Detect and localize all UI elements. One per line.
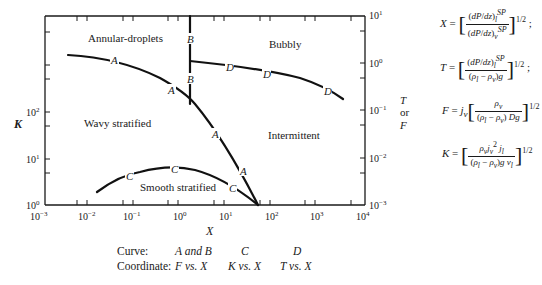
curve-d-label: D — [225, 61, 234, 73]
curve-a-label: A — [211, 128, 219, 140]
region-wavy-stratified: Wavy stratified — [84, 117, 152, 129]
equation-f: F = jv[ρv(ρl − ρv) Dg]1/2 — [442, 98, 539, 125]
curve-b-label: B — [187, 33, 194, 45]
curve-a-label: A — [110, 54, 118, 66]
region-smooth-stratified: Smooth stratified — [140, 181, 217, 193]
legend-curve-label: Curve: — [117, 245, 148, 257]
legend-coord-c: K vs. X — [228, 260, 261, 272]
svg-text:103: 103 — [310, 210, 324, 222]
region-intermittent: Intermittent — [268, 129, 320, 141]
svg-text:10−2: 10−2 — [369, 152, 387, 164]
legend-coord-ab: F vs. X — [175, 260, 207, 272]
equation-t: T = [(dP/dz)lSP(ρl − ρv)g]1/2 ; — [440, 54, 530, 84]
region-bubbly: Bubbly — [269, 38, 302, 50]
curve-c-label: C — [229, 182, 237, 194]
svg-text:100: 100 — [173, 210, 187, 222]
plot-frame — [45, 16, 365, 205]
legend-curve-ab: A and B — [175, 245, 212, 257]
y-axis-right-title-or: or — [400, 106, 410, 118]
svg-text:101: 101 — [26, 153, 40, 165]
svg-text:10−3: 10−3 — [369, 199, 387, 211]
right-tick-labels: 101 100 10−1 10−2 10−3 — [369, 9, 387, 211]
curve-d-label: D — [262, 68, 271, 80]
curve-d-label: D — [323, 85, 332, 97]
svg-text:100: 100 — [26, 199, 40, 211]
y-axis-left-title: K — [13, 117, 23, 131]
svg-text:104: 104 — [356, 210, 370, 222]
curve-d — [190, 61, 343, 99]
svg-text:101: 101 — [369, 9, 383, 21]
y-axis-right-title-t: T — [400, 94, 407, 106]
curve-a-label: A — [167, 84, 175, 96]
svg-text:10−2: 10−2 — [78, 210, 96, 222]
left-axis-ticks — [45, 32, 50, 173]
legend-curve-d: D — [293, 245, 301, 257]
right-axis-ticks — [360, 31, 365, 173]
left-tick-labels: 102 101 100 — [26, 106, 40, 211]
legend-coord-label: Coordinate: — [117, 260, 171, 272]
svg-text:10−1: 10−1 — [123, 210, 141, 222]
region-annular-droplets: Annular-droplets — [88, 32, 163, 44]
curve-c-label: C — [171, 163, 179, 175]
curve-b-label: B — [187, 73, 194, 85]
curve-c-label: C — [126, 170, 134, 182]
equation-x: X = [(dP/dz)lSP(dP/dz)vSP]1/2 ; — [440, 8, 532, 41]
svg-text:10−3: 10−3 — [30, 210, 48, 222]
svg-text:101: 101 — [219, 210, 233, 222]
x-axis-title: X — [205, 224, 214, 238]
svg-text:10−1: 10−1 — [369, 104, 387, 116]
y-axis-right-title-f: F — [399, 119, 407, 131]
svg-text:102: 102 — [26, 106, 40, 118]
x-tick-labels: 10−3 10−2 10−1 100 101 102 103 104 — [30, 210, 370, 222]
equation-k: K = [ρvjv2 jl(ρl − ρv)g νl]1/2 — [442, 140, 532, 170]
svg-text:100: 100 — [369, 57, 383, 69]
svg-text:102: 102 — [265, 210, 279, 222]
curve-a-label: A — [239, 165, 247, 177]
legend-curve-c: C — [241, 245, 249, 257]
legend-coord-d: T vs. X — [280, 260, 311, 272]
